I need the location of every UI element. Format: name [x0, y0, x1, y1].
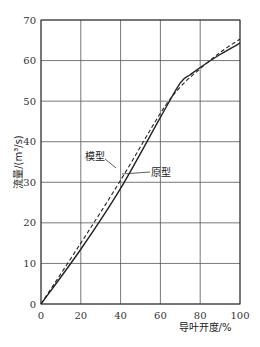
flow-vs-guide-vane-chart: 010203040506070 020406080100 流量/(m³/s) 导… — [0, 0, 260, 347]
prototype-leader-line — [122, 172, 150, 174]
series-lines — [41, 39, 240, 304]
y-tick-label: 20 — [23, 217, 36, 228]
x-tick-label: 0 — [38, 310, 44, 321]
x-tick-label: 100 — [230, 310, 249, 321]
y-axis-label: 流量/(m³/s) — [12, 135, 24, 189]
model-label: 模型 — [85, 150, 105, 162]
y-tick-label: 10 — [23, 258, 36, 269]
y-tick-label: 60 — [23, 55, 36, 66]
x-tick-label: 20 — [74, 310, 87, 321]
model-leader-line — [105, 159, 116, 168]
x-tick-label: 60 — [154, 310, 167, 321]
y-tick-labels: 010203040506070 — [23, 15, 36, 310]
x-axis-label: 导叶开度/% — [179, 321, 232, 333]
grid-lines — [41, 20, 240, 304]
x-tick-labels: 020406080100 — [38, 310, 250, 321]
y-tick-label: 0 — [30, 299, 36, 310]
x-tick-label: 80 — [194, 310, 207, 321]
x-tick-label: 40 — [114, 310, 127, 321]
y-tick-label: 50 — [23, 96, 36, 107]
prototype-curve — [41, 43, 240, 304]
y-tick-label: 30 — [23, 177, 36, 188]
prototype-label: 原型 — [151, 166, 171, 178]
plot-frame — [41, 20, 240, 304]
y-tick-label: 40 — [23, 136, 36, 147]
y-tick-label: 70 — [23, 15, 36, 26]
